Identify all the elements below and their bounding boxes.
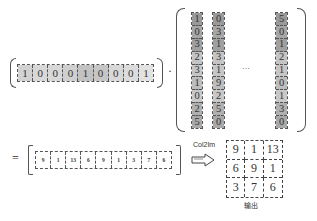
- matrix-cell: 3: [276, 103, 287, 116]
- result-cell: 3: [127, 152, 142, 168]
- matrix-cell: 3: [213, 52, 224, 65]
- kernel-cell: 0: [33, 65, 48, 81]
- matrix-cell: 0: [276, 77, 287, 90]
- matrix-column-1: 103231025: [191, 12, 203, 129]
- result-cell: 9: [96, 152, 111, 168]
- kernel-cell: 0: [124, 65, 139, 81]
- output-cell: 1: [245, 141, 263, 160]
- result-cell: 9: [36, 152, 51, 168]
- kernel-cell: 1: [139, 65, 153, 81]
- matrix-cell: 5: [276, 13, 287, 26]
- matrix-cell: 5: [213, 103, 224, 116]
- kernel-row-vector: 100010001: [17, 64, 154, 82]
- left-bracket-result: [28, 145, 33, 175]
- kernel-cell: 0: [63, 65, 78, 81]
- matrix-cell: 2: [213, 90, 224, 103]
- equals-sign: =: [12, 151, 19, 166]
- right-bracket-result: [176, 145, 181, 175]
- matrix-cell: 3: [192, 39, 202, 52]
- matrix-cell: 1: [276, 65, 287, 78]
- result-cell: 6: [157, 152, 171, 168]
- kernel-cell: 0: [48, 65, 63, 81]
- matrix-cell: 9: [213, 77, 224, 90]
- matrix-cell: 0: [213, 116, 224, 128]
- matrix-cell: 0: [276, 116, 287, 128]
- output-cell: 6: [264, 178, 282, 197]
- matrix-cell: 2: [192, 103, 202, 116]
- output-cell: 9: [227, 141, 245, 160]
- matrix-cell: 1: [276, 39, 287, 52]
- output-cell: 9: [245, 160, 263, 179]
- kernel-cell: 0: [94, 65, 109, 81]
- right-paren-matrix: [297, 8, 306, 132]
- matrix-cell: 0: [213, 13, 224, 26]
- matrix-cell: 3: [192, 65, 202, 78]
- result-row-vector: 9113691376: [35, 151, 172, 169]
- matrix-cell: 1: [276, 90, 287, 103]
- matrix-column-last: 501210130: [275, 12, 288, 129]
- output-cell: 13: [264, 141, 282, 160]
- result-cell: 1: [112, 152, 127, 168]
- left-paren-matrix: [176, 8, 185, 132]
- matrix-cell: 1: [192, 13, 202, 26]
- matrix-cell: 1: [213, 39, 224, 52]
- ellipsis: ···: [242, 64, 250, 73]
- matrix-cell: 1: [192, 77, 202, 90]
- multiply-dot: ·: [168, 64, 172, 79]
- output-cell: 1: [264, 160, 282, 179]
- matrix-cell: 1: [213, 65, 224, 78]
- matrix-cell: 0: [276, 26, 287, 39]
- matrix-cell: 0: [192, 90, 202, 103]
- kernel-cell: 1: [78, 65, 93, 81]
- result-cell: 13: [66, 152, 81, 168]
- output-cell: 7: [245, 178, 263, 197]
- output-grid: 9113691376: [226, 140, 283, 198]
- output-cell: 6: [227, 160, 245, 179]
- matrix-cell: 2: [276, 52, 287, 65]
- left-paren-kernel: [10, 58, 16, 88]
- matrix-cell: 5: [192, 116, 202, 128]
- right-paren-kernel: [157, 58, 163, 88]
- kernel-cell: 0: [109, 65, 124, 81]
- matrix-cell: 2: [192, 52, 202, 65]
- col2im-label: Col2Im: [193, 141, 215, 148]
- matrix-cell: 3: [213, 26, 224, 39]
- output-cell: 3: [227, 178, 245, 197]
- result-cell: 6: [81, 152, 96, 168]
- output-label: 输出: [244, 200, 258, 210]
- result-cell: 7: [142, 152, 157, 168]
- matrix-cell: 0: [192, 26, 202, 39]
- kernel-cell: 1: [18, 65, 33, 81]
- matrix-column-2: 031319250: [212, 12, 225, 129]
- right-arrow-icon: [191, 153, 215, 167]
- result-cell: 1: [51, 152, 66, 168]
